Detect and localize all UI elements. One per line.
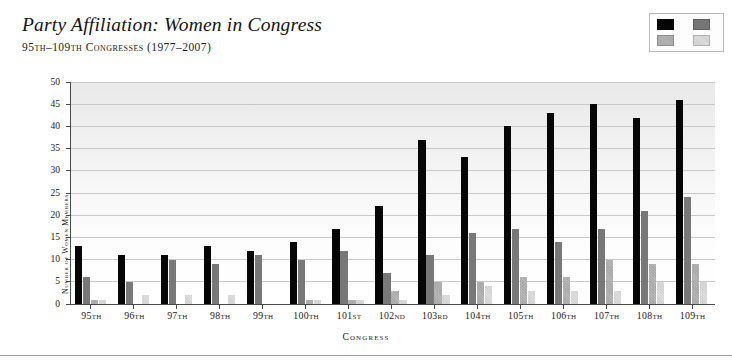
bar-group-99th (247, 82, 278, 304)
bar-106th-senate-democrats[interactable] (563, 277, 570, 304)
x-tick-label-95th: 95th (70, 310, 113, 321)
legend-item-house_democrats[interactable] (657, 19, 679, 30)
bar-101st-senate-republicans[interactable] (356, 300, 363, 304)
bar-105th-senate-republicans[interactable] (528, 291, 535, 304)
bar-98th-house-democrats[interactable] (204, 246, 211, 304)
bar-106th-senate-republicans[interactable] (571, 291, 578, 304)
bar-109th-house-republicans[interactable] (684, 197, 691, 304)
bar-107th-house-democrats[interactable] (590, 104, 597, 304)
bar-95th-house-democrats[interactable] (75, 246, 82, 304)
bar-95th-house-republicans[interactable] (83, 277, 90, 304)
legend-swatch-house_democrats (657, 19, 674, 30)
x-tick (305, 304, 306, 309)
bar-96th-house-republicans[interactable] (126, 282, 133, 304)
x-tick-label-97th: 97th (156, 310, 199, 321)
bar-103rd-house-republicans[interactable] (426, 255, 433, 304)
legend-swatch-house_republicans (693, 19, 710, 30)
legend-item-senate_democrats[interactable] (657, 35, 679, 46)
x-tick (649, 304, 650, 309)
bar-105th-senate-democrats[interactable] (520, 277, 527, 304)
x-tick-label-109th: 109th (671, 310, 714, 321)
bar-102nd-senate-democrats[interactable] (391, 291, 398, 304)
bar-group-97th (161, 82, 192, 304)
bar-108th-senate-democrats[interactable] (649, 264, 656, 304)
bar-102nd-house-democrats[interactable] (375, 206, 382, 304)
bar-109th-senate-republicans[interactable] (700, 282, 707, 304)
bar-108th-house-republicans[interactable] (641, 211, 648, 304)
bar-109th-house-democrats[interactable] (676, 100, 683, 304)
bar-104th-senate-republicans[interactable] (485, 286, 492, 304)
bar-101st-house-democrats[interactable] (332, 229, 339, 304)
x-tick (391, 304, 392, 309)
bar-96th-house-democrats[interactable] (118, 255, 125, 304)
bar-101st-house-republicans[interactable] (340, 251, 347, 304)
chart-legend (649, 13, 724, 52)
bar-group-109th (676, 82, 707, 304)
bar-108th-house-democrats[interactable] (633, 118, 640, 304)
bar-101st-senate-democrats[interactable] (348, 300, 355, 304)
y-tick-label: 10 (38, 253, 60, 264)
page-title: Party Affiliation: Women in Congress (22, 14, 322, 36)
footer-divider (0, 355, 732, 356)
bar-106th-house-republicans[interactable] (555, 242, 562, 304)
bar-107th-senate-democrats[interactable] (606, 260, 613, 304)
x-tick (692, 304, 693, 309)
bar-107th-house-republicans[interactable] (598, 229, 605, 304)
y-tick-label: 5 (38, 275, 60, 286)
bar-102nd-senate-republicans[interactable] (399, 300, 406, 304)
bar-106th-house-democrats[interactable] (547, 113, 554, 304)
y-tick-label: 30 (38, 164, 60, 175)
x-tick-label-98th: 98th (199, 310, 242, 321)
bar-107th-senate-republicans[interactable] (614, 291, 621, 304)
bar-95th-senate-democrats[interactable] (91, 300, 98, 304)
bar-group-98th (204, 82, 235, 304)
bar-98th-senate-republicans[interactable] (228, 295, 235, 304)
bar-97th-senate-republicans[interactable] (185, 295, 192, 304)
bar-95th-senate-republicans[interactable] (99, 300, 106, 304)
bar-group-106th (547, 82, 578, 304)
bar-108th-senate-republicans[interactable] (657, 282, 664, 304)
bar-99th-house-republicans[interactable] (255, 255, 262, 304)
bar-97th-house-republicans[interactable] (169, 260, 176, 304)
x-tick-label-99th: 99th (242, 310, 285, 321)
x-axis-label: Congress (0, 331, 732, 342)
y-tick-label: 25 (38, 187, 60, 198)
bar-104th-house-republicans[interactable] (469, 233, 476, 304)
bar-104th-house-democrats[interactable] (461, 157, 468, 304)
bar-98th-house-republicans[interactable] (212, 264, 219, 304)
chart-subtitle: 95th–109th Congresses (1977–2007) (22, 41, 322, 53)
bar-105th-house-democrats[interactable] (504, 126, 511, 304)
bar-104th-senate-democrats[interactable] (477, 282, 484, 304)
bar-99th-house-democrats[interactable] (247, 251, 254, 304)
x-tick-label-103rd: 103rd (413, 310, 456, 321)
bar-group-103rd (418, 82, 449, 304)
x-tick (219, 304, 220, 309)
bar-group-95th (75, 82, 106, 304)
bar-105th-house-republicans[interactable] (512, 229, 519, 304)
bar-96th-senate-republicans[interactable] (142, 295, 149, 304)
bar-103rd-house-democrats[interactable] (418, 140, 425, 304)
bar-100th-house-democrats[interactable] (290, 242, 297, 304)
bar-100th-house-republicans[interactable] (298, 260, 305, 304)
x-tick (606, 304, 607, 309)
bar-97th-house-democrats[interactable] (161, 255, 168, 304)
bar-100th-senate-democrats[interactable] (306, 300, 313, 304)
bar-group-100th (290, 82, 321, 304)
bar-109th-senate-democrats[interactable] (692, 264, 699, 304)
bar-102nd-house-republicans[interactable] (383, 273, 390, 304)
bar-100th-senate-republicans[interactable] (314, 300, 321, 304)
bar-group-108th (633, 82, 664, 304)
x-tick (176, 304, 177, 309)
bar-103rd-senate-republicans[interactable] (442, 295, 449, 304)
x-tick (520, 304, 521, 309)
x-tick-label-100th: 100th (285, 310, 328, 321)
legend-item-senate_republicans[interactable] (693, 35, 715, 46)
legend-swatch-senate_republicans (693, 35, 710, 46)
bar-group-107th (590, 82, 621, 304)
bar-103rd-senate-democrats[interactable] (434, 282, 441, 304)
y-tick-label: 20 (38, 209, 60, 220)
y-axis-label: Number of Women Members (61, 194, 70, 294)
legend-item-house_republicans[interactable] (693, 19, 715, 30)
x-tick-label-105th: 105th (499, 310, 542, 321)
x-tick (563, 304, 564, 309)
